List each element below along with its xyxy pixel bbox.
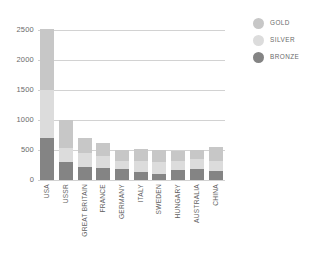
stacked-bar[interactable] [209,147,223,180]
bar-segment-silver [59,148,73,162]
bar-slot [94,30,113,180]
legend-item-bronze[interactable]: BRONZE [253,49,315,66]
bar-segment-gold [171,151,185,162]
x-label-slot: FRANCE [94,182,113,254]
bar-slot [75,30,94,180]
bar-segment-silver [209,161,223,171]
x-axis-label: SWEDEN [156,184,163,214]
bar-segment-bronze [96,168,110,180]
y-tick-label: 500 [0,146,34,154]
bar-segment-bronze [115,169,129,180]
bar-segment-bronze [152,174,166,180]
bar-segment-silver [115,161,129,169]
bar-segment-silver [190,159,204,169]
x-axis-label: USSR [63,184,70,203]
bar-slot [206,30,225,180]
stacked-bar[interactable] [59,120,73,180]
bar-segment-silver [171,161,185,170]
stacked-bar[interactable] [171,151,185,181]
y-tick-label: 2000 [0,56,34,64]
stacked-bar[interactable] [115,150,129,180]
x-label-slot: HUNGARY [169,182,188,254]
x-label-slot: ITALY [131,182,150,254]
bar-segment-bronze [59,162,73,180]
bar-segment-silver [152,162,166,174]
bar-slot [113,30,132,180]
y-tick-label: 2500 [0,26,34,34]
bar-segment-gold [96,143,110,156]
legend-item-silver[interactable]: SILVER [253,32,315,49]
bar-slot [131,30,150,180]
legend-label: GOLD [270,20,290,26]
x-axis-label: HUNGARY [175,184,182,219]
bar-segment-bronze [209,171,223,180]
stacked-bar[interactable] [40,29,54,180]
bar-segment-gold [59,120,73,148]
bar-segment-bronze [171,170,185,180]
bar-group [38,30,225,180]
bar-segment-gold [78,138,92,152]
plot-area [38,30,225,180]
bar-segment-silver [78,153,92,167]
y-tick-label: 0 [0,176,34,184]
x-label-slot: CHINA [206,182,225,254]
bar-slot [188,30,207,180]
stacked-bar[interactable] [152,150,166,180]
stacked-bar[interactable] [134,149,148,180]
legend-item-gold[interactable]: GOLD [253,15,315,32]
x-label-slot: USA [38,182,57,254]
x-label-slot: SWEDEN [150,182,169,254]
legend-swatch-icon [253,18,264,29]
bar-slot [57,30,76,180]
bar-slot [169,30,188,180]
x-axis-label: CHINA [212,184,219,206]
bar-segment-bronze [40,138,54,180]
x-label-slot: GREAT BRITAIN [75,182,94,254]
bar-segment-bronze [190,169,204,180]
bar-segment-bronze [134,172,148,180]
x-axis-label: USA [44,184,51,198]
x-axis-label: AUSTRALIA [194,184,201,223]
bar-segment-gold [40,29,54,90]
x-axis-label: FRANCE [100,184,107,213]
x-label-slot: AUSTRALIA [188,182,207,254]
bar-segment-gold [209,147,223,160]
stacked-bar[interactable] [78,138,92,180]
chart-legend: GOLDSILVERBRONZE [253,15,315,66]
bar-segment-bronze [78,167,92,180]
stacked-bar-chart: 05001000150020002500 USAUSSRGREAT BRITAI… [0,0,316,256]
x-axis-label: GERMANY [119,184,126,219]
gridline-0 [38,180,225,181]
legend-label: BRONZE [270,54,299,60]
bar-segment-gold [115,150,129,161]
bar-segment-silver [96,156,110,168]
bar-segment-gold [190,150,204,159]
x-axis-label: ITALY [137,184,144,203]
bar-segment-silver [134,161,148,172]
legend-swatch-icon [253,35,264,46]
legend-label: SILVER [270,37,295,43]
y-tick-label: 1500 [0,86,34,94]
bar-slot [150,30,169,180]
bar-segment-gold [152,150,166,162]
bar-segment-gold [134,149,148,161]
x-label-slot: USSR [57,182,76,254]
x-axis-label: GREAT BRITAIN [81,184,88,237]
legend-swatch-icon [253,52,264,63]
x-label-slot: GERMANY [113,182,132,254]
stacked-bar[interactable] [190,150,204,180]
bar-slot [38,30,57,180]
stacked-bar[interactable] [96,143,110,180]
y-tick-label: 1000 [0,116,34,124]
x-axis-labels: USAUSSRGREAT BRITAINFRANCEGERMANYITALYSW… [38,182,225,254]
bar-segment-silver [40,90,54,138]
